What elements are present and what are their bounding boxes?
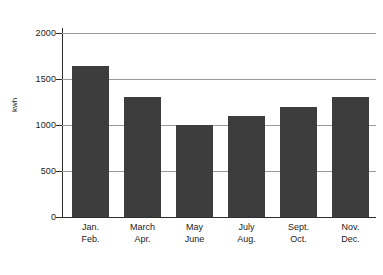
y-tick-label-2000: 2000 [36, 28, 56, 38]
tick-mark-0 [56, 217, 62, 218]
bar-sept-oct [280, 107, 317, 217]
y-tick-label-500: 500 [41, 166, 56, 176]
gridline-zero [62, 217, 376, 218]
x-tick-label-line2: Dec. [320, 234, 382, 246]
bar-jan-feb [72, 66, 109, 217]
bar-july-aug [228, 116, 265, 217]
y-axis-title: kwh [10, 98, 19, 112]
y-tick-label-1500: 1500 [36, 74, 56, 84]
y-axis-tick-labels: 0 500 1000 1500 2000 [26, 33, 56, 217]
bar-chart: kwh 0 500 1000 1500 2000 Jan. Feb. March… [0, 0, 383, 275]
bar-nov-dec [332, 97, 369, 217]
bar-may-june [176, 125, 213, 217]
x-tick-label-line1: Nov. [320, 222, 382, 234]
bar-march-apr [124, 97, 161, 217]
y-tick-label-1000: 1000 [36, 120, 56, 130]
x-tick-label-nov-dec: Nov. Dec. [320, 222, 382, 245]
bar-series [62, 33, 376, 217]
x-axis-tick-labels: Jan. Feb. March Apr. May June July Aug. … [62, 222, 376, 262]
